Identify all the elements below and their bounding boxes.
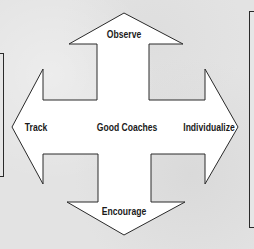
arrow-label-encourage: Encourage bbox=[97, 205, 150, 217]
arrow-label-individualize: Individualize bbox=[177, 121, 241, 133]
diagram-canvas: Observe Track Good Coaches Individualize… bbox=[0, 0, 254, 249]
center-label-good-coaches: Good Coaches bbox=[93, 121, 160, 133]
arrow-label-track: Track bbox=[20, 121, 51, 133]
arrow-label-observe: Observe bbox=[101, 28, 148, 40]
